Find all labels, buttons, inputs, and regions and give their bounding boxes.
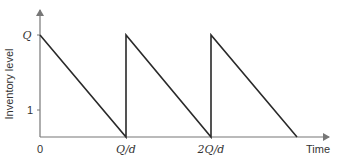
inventory-level-series (40, 35, 297, 137)
y-tick-label-1: 1 (27, 104, 33, 116)
x-tick-label-q-over-d: Q/d (116, 143, 136, 156)
inventory-sawtooth-chart: Q 1 0 Q/d 2Q/d Time Inventory level (0, 0, 341, 159)
x-tick-label-0: 0 (37, 143, 43, 155)
x-axis-label: Time (306, 143, 330, 155)
y-tick-label-q: Q (22, 29, 31, 42)
y-axis-label: Inventory level (3, 49, 15, 120)
x-tick-label-2q-over-d: 2Q/d (197, 143, 225, 156)
